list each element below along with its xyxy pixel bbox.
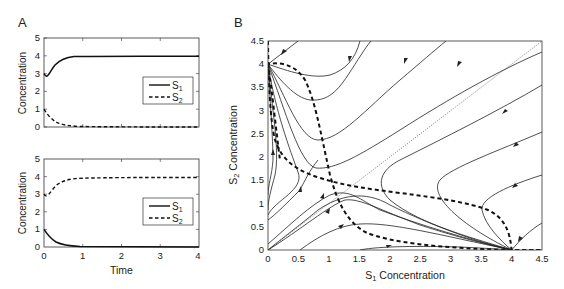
tick-label: 0	[35, 121, 40, 132]
tick-label: 4	[195, 250, 200, 261]
tick-label: 1.5	[251, 174, 264, 185]
tick-label: 0	[259, 244, 264, 255]
x-tick-labels: 0 0.5 1 1.5 2 2.5 3 3.5 4 4.5	[265, 253, 548, 264]
arrow-icon	[320, 193, 324, 199]
tick-label: 1.5	[353, 253, 366, 264]
legend: S1 S2	[143, 77, 193, 104]
y-axis-label: S2 Concentration	[227, 105, 241, 185]
arrow-icon	[457, 61, 462, 67]
tick-label: 3.5	[251, 81, 264, 92]
legend: S1 S2	[143, 198, 193, 225]
tick-label: 3	[259, 105, 264, 116]
tick-label: 4	[35, 171, 40, 182]
y-tick-labels: 0 1 2 3 4 5	[35, 32, 40, 132]
tick-label: 2.5	[414, 253, 427, 264]
arrow-icon	[271, 149, 275, 155]
tick-label: 3	[448, 253, 453, 264]
tick-label: 3	[35, 68, 40, 79]
x-axis-label: S1 Concentration	[365, 269, 445, 283]
panel-b-phase-plot: 0 0.5 1 1.5 2 2.5 3 3.5 4 4.5 0 0.5 1 1.…	[227, 35, 549, 283]
tick-label: 2	[35, 206, 40, 217]
tick-label: 1	[326, 253, 331, 264]
y-tick-labels: 0 1 2 3 4 5	[35, 153, 40, 252]
tick-label: 0	[41, 250, 46, 261]
legend-box	[143, 77, 193, 104]
tick-label: 2	[35, 85, 40, 96]
panel-a-top-plot: 0 1 2 3 4 5 Concentration S1 S2	[17, 32, 199, 132]
series-s2-line	[44, 178, 199, 196]
tick-label: 2	[259, 151, 264, 162]
panel-a-label: A	[18, 15, 27, 30]
tick-label: 0	[35, 241, 40, 252]
tick-label: 0	[265, 253, 270, 264]
tick-label: 4.5	[535, 253, 548, 264]
tick-label: 1	[259, 198, 264, 209]
tick-label: 0.5	[292, 253, 305, 264]
tick-label: 1	[80, 250, 85, 261]
tick-label: 2	[387, 253, 392, 264]
y-axis-label: Concentration	[17, 172, 28, 234]
figure: A 0 1 2 3 4 5 Concentration S	[0, 0, 564, 289]
arrow-icon	[502, 109, 508, 114]
tick-label: 4.5	[251, 35, 264, 46]
tick-label: 4	[509, 253, 514, 264]
series-s1-line	[44, 56, 199, 76]
y-axis-label: Concentration	[17, 52, 28, 114]
legend-box	[143, 198, 193, 225]
x-axis-label: Time	[110, 264, 133, 276]
tick-label: 5	[35, 32, 40, 43]
tick-label: 5	[35, 153, 40, 164]
tick-label: 1	[35, 103, 40, 114]
y-tick-labels: 0 0.5 1 1.5 2 2.5 3 3.5 4 4.5	[251, 35, 264, 255]
panel-b-label: B	[234, 15, 243, 30]
trajectory-arrows	[271, 49, 523, 248]
tick-label: 2.5	[251, 128, 264, 139]
tick-label: 2	[119, 250, 124, 261]
tick-label: 3.5	[474, 253, 487, 264]
arrow-icon	[386, 245, 392, 248]
tick-label: 4	[259, 58, 264, 69]
tick-label: 0.5	[251, 221, 264, 232]
x-tick-labels: 0 1 2 3 4	[41, 250, 200, 261]
tick-label: 4	[35, 50, 40, 61]
panel-a-bottom-plot: 0 1 2 3 4 5 0 1 2 3 4 Concentration Time…	[17, 153, 201, 276]
arrow-icon	[513, 142, 519, 147]
tick-label: 3	[158, 250, 163, 261]
arrow-icon	[404, 58, 408, 64]
tick-label: 3	[35, 188, 40, 199]
tick-label: 1	[35, 223, 40, 234]
phase-curves	[268, 41, 542, 250]
